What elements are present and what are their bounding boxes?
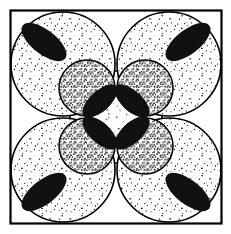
- figure-root: [0, 0, 231, 234]
- pattern-svg: [0, 0, 231, 234]
